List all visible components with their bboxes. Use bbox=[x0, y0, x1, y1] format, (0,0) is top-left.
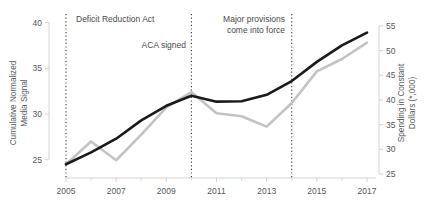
left-axis-tick-label: 25 bbox=[33, 155, 43, 165]
annotation-major-provisions-come-into-force: Major provisions bbox=[223, 14, 285, 24]
x-axis-tick-label: 2013 bbox=[257, 186, 276, 196]
x-axis-tick-label: 2007 bbox=[107, 186, 126, 196]
right-axis-tick-label: 50 bbox=[386, 46, 396, 56]
right-axis-title: Spending in Constant bbox=[397, 63, 406, 142]
x-axis-tick-label: 2011 bbox=[207, 186, 226, 196]
annotation-aca-signed: ACA signed bbox=[142, 40, 187, 50]
x-axis-tick-label: 2009 bbox=[157, 186, 176, 196]
left-axis-title: Cumulative Normalized bbox=[9, 60, 18, 145]
x-axis-tick-label: 2015 bbox=[307, 186, 326, 196]
right-axis-tick-label: 45 bbox=[386, 70, 396, 80]
right-axis-tick-label: 40 bbox=[386, 95, 396, 105]
x-axis-tick-label: 2017 bbox=[358, 186, 377, 196]
chart-container: 25303540 25303540455055 2005200720092011… bbox=[0, 0, 430, 215]
annotation-major-provisions-come-into-force: come into force bbox=[227, 25, 285, 35]
right-axis-tick-label: 35 bbox=[386, 120, 396, 130]
right-axis-tick-label: 30 bbox=[386, 144, 396, 154]
left-axis-tick-label: 40 bbox=[33, 18, 43, 28]
right-axis-title-line2: Dollars (*,000) bbox=[408, 77, 417, 130]
left-axis-title-line2: Media Signal bbox=[20, 79, 29, 127]
line-chart: 25303540 25303540455055 2005200720092011… bbox=[0, 0, 430, 215]
x-axis-tick-label: 2005 bbox=[57, 186, 76, 196]
left-axis-tick-label: 35 bbox=[33, 63, 43, 73]
annotation-deficit-reduction-act: Deficit Reduction Act bbox=[76, 14, 155, 24]
right-axis-tick-label: 25 bbox=[386, 169, 396, 179]
left-axis-tick-label: 30 bbox=[33, 109, 43, 119]
right-axis-tick-label: 55 bbox=[386, 21, 396, 31]
